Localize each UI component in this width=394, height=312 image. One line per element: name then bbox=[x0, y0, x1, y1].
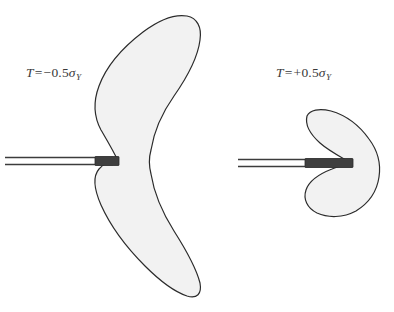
label-sigma: σ bbox=[319, 65, 326, 80]
label-subscript: Y bbox=[326, 72, 332, 82]
label-magnitude: 0.5 bbox=[301, 65, 318, 80]
label-symbol-T: T bbox=[276, 65, 284, 80]
label-positive-t-stress: T=+0.5σY bbox=[276, 65, 331, 82]
figure-root: T=−0.5σY T=+0.5σY bbox=[0, 0, 394, 312]
negative-t-stress-panel bbox=[5, 16, 200, 297]
crack-tip-block bbox=[305, 159, 353, 168]
label-symbol-T: T bbox=[26, 65, 34, 80]
label-magnitude: 0.5 bbox=[51, 65, 68, 80]
label-negative-t-stress: T=−0.5σY bbox=[26, 65, 81, 82]
label-equals: = bbox=[34, 65, 44, 80]
figure-canvas bbox=[0, 0, 394, 312]
crack-tip-block bbox=[95, 157, 119, 166]
label-equals: = bbox=[284, 65, 294, 80]
label-sigma: σ bbox=[69, 65, 76, 80]
label-subscript: Y bbox=[76, 72, 82, 82]
positive-t-stress-panel bbox=[238, 110, 380, 217]
